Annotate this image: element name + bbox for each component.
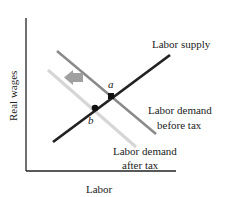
- equilibrium-point-b: [92, 105, 99, 112]
- demand-after-label-line2: after tax: [122, 159, 159, 171]
- y-axis-label: Real wages: [7, 71, 19, 121]
- shift-left-arrow-icon: [64, 70, 83, 85]
- x-axis-label: Labor: [86, 183, 113, 195]
- point-b-label: b: [88, 114, 94, 126]
- demand-before-label-line2: before tax: [157, 119, 202, 131]
- demand-before-label-line1: Labor demand: [148, 104, 212, 116]
- point-a-label: a: [108, 78, 114, 90]
- equilibrium-point-a: [108, 93, 114, 99]
- labor-supply-label: Labor supply: [152, 38, 211, 50]
- demand-after-label-line1: Labor demand: [113, 145, 177, 157]
- labor-market-diagram: a b Labor supply Labor demand before tax…: [0, 0, 230, 197]
